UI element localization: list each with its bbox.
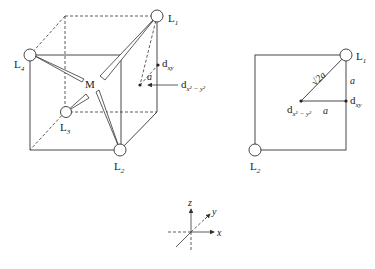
axis-z-label: z — [187, 197, 192, 208]
square-dxy-label: dxy — [350, 94, 363, 109]
ligand-l3-sphere — [61, 107, 72, 118]
square-dx2y2-label: dx² − y² — [287, 103, 312, 118]
square-view: L1 L2 dxy dx² − y² √2a a a — [249, 49, 366, 175]
axis-x-label: x — [216, 227, 222, 238]
ligand-l1-label: L1 — [168, 12, 178, 27]
ligand-l2-label: L2 — [114, 160, 125, 175]
angle-a-label: a — [147, 71, 152, 82]
metal-label: M — [85, 78, 95, 90]
square-ligand-l2-sphere — [249, 144, 261, 156]
bond-m-l4 — [33, 55, 84, 82]
axis-y-arrow — [205, 214, 210, 219]
dxy-point — [156, 63, 159, 66]
ligand-l4-sphere — [24, 49, 36, 61]
cube-edge-top-left-diag — [30, 16, 65, 55]
vertical-length-label: a — [350, 75, 355, 86]
horizontal-length-label: a — [323, 105, 328, 116]
axis-y-label: y — [211, 206, 217, 217]
ligand-l3-label: L3 — [60, 121, 71, 136]
axis-neg-y — [176, 232, 191, 247]
square-dxy-point — [344, 99, 347, 102]
square-ligand-l1-label: L1 — [356, 50, 366, 65]
square-ligand-l2-label: L2 — [250, 160, 261, 175]
ligand-l2-sphere — [114, 144, 126, 156]
dx2y2-label: dx² − y² — [181, 78, 206, 93]
bond-m-l2 — [96, 90, 120, 150]
dxy-label: dxy — [162, 57, 175, 72]
cube-view: M L1 L2 L3 L4 dxy dx² − y² a — [14, 10, 206, 175]
square-ligand-l1-sphere — [340, 49, 352, 61]
ligand-l1-sphere — [151, 10, 163, 22]
square-dx2y2-point — [299, 99, 302, 102]
ligand-l4-label: L4 — [14, 58, 25, 73]
cube-edge-bottom-right-diag — [120, 112, 157, 150]
dx2y2-point — [138, 83, 141, 86]
diagonal-length-label: √2a — [309, 69, 328, 88]
tetrahedral-orbital-diagram: M L1 L2 L3 L4 dxy dx² − y² a L1 L2 dxy d… — [0, 0, 375, 269]
coordinate-axes: z x y — [168, 197, 222, 252]
